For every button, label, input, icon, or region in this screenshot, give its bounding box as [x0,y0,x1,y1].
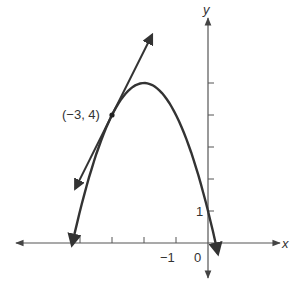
y-tick-label-one: 1 [196,204,203,219]
point-label: (−3, 4) [62,107,100,122]
x-tick-label-minus-one: −1 [160,250,175,265]
tangent-point [109,112,114,117]
x-axis-label: x [281,236,289,251]
y-ticks [208,83,214,211]
y-axis-label: y [202,2,211,17]
x-ticks [80,237,176,243]
plot-area: (−3, 4) y x −1 0 1 [0,0,299,281]
origin-label: 0 [194,250,201,265]
figure: (−3, 4) y x −1 0 1 [0,0,299,281]
